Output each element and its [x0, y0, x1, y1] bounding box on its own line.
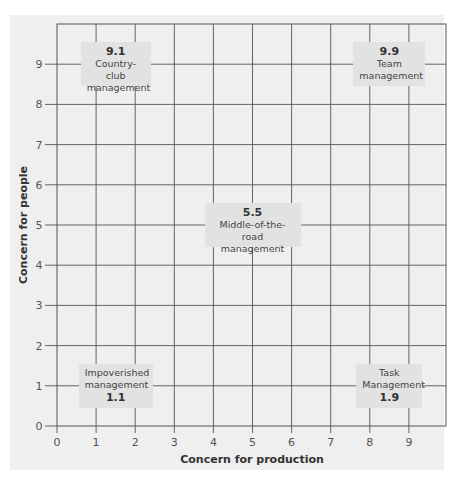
x-tick-label: 7 [327, 436, 334, 449]
style-label-1-9: TaskManagement1.9 [356, 364, 422, 408]
x-tick-label: 2 [132, 436, 139, 449]
y-tick-label: 2 [36, 340, 43, 353]
y-tick-label: 4 [36, 259, 43, 272]
x-tick-label: 9 [405, 436, 412, 449]
x-tick-label: 4 [210, 436, 217, 449]
y-tick-label: 9 [36, 58, 43, 71]
style-name-line: Country-club [87, 58, 145, 82]
y-tick-label: 6 [36, 179, 43, 192]
style-code: 1.9 [362, 391, 416, 404]
x-tick-label: 0 [54, 436, 61, 449]
style-name-line: Management [362, 379, 416, 391]
style-code: 9.9 [359, 45, 419, 58]
y-axis-label: Concern for people [17, 166, 30, 284]
y-tick-label: 1 [36, 380, 43, 393]
style-name-line: Task [362, 367, 416, 379]
style-code: 9.1 [87, 45, 145, 58]
style-label-9-1: 9.1Country-clubmanagement [81, 42, 151, 86]
x-axis-label: Concern for production [180, 453, 324, 466]
style-name-line: management [359, 70, 419, 82]
style-code: 5.5 [211, 206, 295, 219]
style-label-1-1: Impoverishedmanagement1.1 [79, 364, 153, 408]
x-tick-label: 8 [366, 436, 373, 449]
y-tick-label: 7 [36, 139, 43, 152]
style-label-9-9: 9.9Teammanagement [353, 42, 425, 86]
style-name-line: management [211, 243, 295, 255]
x-tick-label: 1 [93, 436, 100, 449]
y-tick-label: 8 [36, 98, 43, 111]
y-tick-label: 0 [36, 420, 43, 433]
style-code: 1.1 [85, 391, 147, 404]
style-name-line: management [87, 82, 145, 94]
style-name-line: Team [359, 58, 419, 70]
y-tick-label: 5 [36, 219, 43, 232]
style-name-line: Middle-of-the-road [211, 219, 295, 243]
x-tick-label: 6 [288, 436, 295, 449]
y-tick-label: 3 [36, 299, 43, 312]
style-name-line: management [85, 379, 147, 391]
x-tick-label: 5 [249, 436, 256, 449]
style-label-5-5: 5.5Middle-of-the-roadmanagement [205, 203, 301, 247]
style-name-line: Impoverished [85, 367, 147, 379]
x-tick-label: 3 [171, 436, 178, 449]
